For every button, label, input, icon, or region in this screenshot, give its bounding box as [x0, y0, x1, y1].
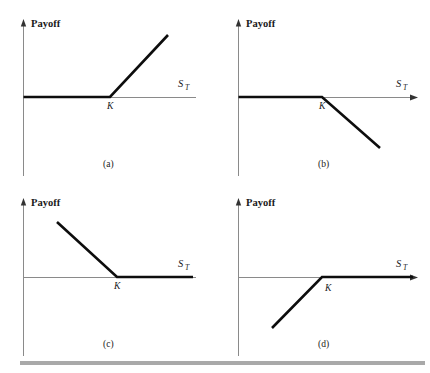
panel-d-payoff-curve [272, 277, 413, 328]
bottom-rule-divider [20, 361, 425, 365]
panel-d-x-axis-label: S [396, 258, 402, 269]
panel-a-caption: (a) [103, 159, 114, 170]
panel-c-x-axis-label: S [178, 258, 184, 269]
figure-container: Payoff S T K (a) Payoff S T K (b) P [0, 0, 430, 373]
panel-d-y-axis-arrow-icon [236, 198, 241, 206]
panel-c-strike-label: K [113, 281, 121, 291]
panel-b-y-axis-arrow-icon [236, 19, 241, 27]
panel-d-x-axis-label-sub: T [403, 263, 408, 272]
panel-d-strike-label: K [324, 283, 332, 293]
panel-a: Payoff S T K (a) [21, 18, 196, 176]
panel-c-x-axis-label-sub: T [185, 263, 190, 272]
panel-d-y-axis-label: Payoff [246, 197, 276, 208]
panel-c-y-axis-label: Payoff [31, 197, 61, 208]
panel-b-x-axis-arrow-icon [410, 95, 418, 101]
panel-a-payoff-curve [24, 35, 169, 97]
panel-c: Payoff S T K (c) [21, 197, 196, 356]
panel-a-strike-label: K [106, 101, 114, 111]
panel-a-y-axis-arrow-icon [21, 19, 26, 27]
panel-a-x-axis-label-sub: T [185, 83, 190, 92]
panel-c-payoff-curve [57, 222, 193, 277]
panel-d: Payoff S T K (d) [236, 197, 418, 356]
panel-b-y-axis-label: Payoff [246, 18, 276, 29]
payoff-diagram-svg: Payoff S T K (a) Payoff S T K (b) P [0, 0, 430, 373]
panel-b-caption: (b) [318, 159, 329, 170]
panel-c-caption: (c) [103, 339, 114, 350]
panel-d-caption: (d) [318, 339, 329, 350]
panel-b-strike-label: K [318, 101, 326, 111]
panel-b-x-axis-label-sub: T [403, 83, 408, 92]
panel-a-y-axis-label: Payoff [31, 18, 61, 29]
panel-b: Payoff S T K (b) [236, 18, 418, 176]
panel-c-y-axis-arrow-icon [21, 198, 26, 206]
panel-a-x-axis-label: S [178, 78, 184, 89]
panel-b-x-axis-label: S [396, 78, 402, 89]
panel-b-payoff-curve [239, 97, 381, 148]
